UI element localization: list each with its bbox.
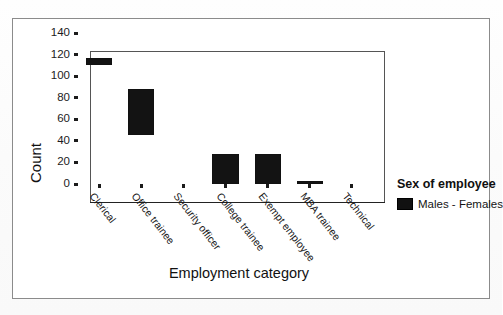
x-tick-mark — [224, 184, 227, 188]
x-tick-mark — [350, 184, 353, 188]
x-axis-title: Employment category — [109, 265, 369, 281]
x-tick-mark — [140, 184, 143, 188]
legend: Sex of employee Males - Females — [397, 177, 502, 210]
y-tick-label: 0 — [24, 178, 70, 189]
y-tick-label: 100 — [24, 70, 70, 81]
y-tick-mark — [74, 183, 78, 186]
y-tick-label: 20 — [24, 156, 70, 167]
x-tick-mark — [98, 184, 101, 188]
figure-border: Count 020406080100120140 ClericalOffice … — [12, 18, 490, 299]
x-tick-mark — [182, 184, 185, 188]
bar — [212, 154, 238, 184]
y-tick-label: 140 — [24, 27, 70, 38]
legend-swatch-icon — [397, 198, 413, 210]
y-tick-mark — [74, 96, 78, 99]
bar — [86, 58, 112, 66]
legend-item-label: Males - Females — [418, 198, 503, 210]
y-tick-label: 60 — [24, 113, 70, 124]
legend-item: Males - Females — [397, 198, 502, 210]
y-tick-label: 40 — [24, 135, 70, 146]
x-tick-mark — [308, 184, 311, 188]
x-tick-mark — [266, 184, 269, 188]
y-tick-mark — [74, 139, 78, 142]
legend-title: Sex of employee — [397, 177, 502, 191]
y-tick-mark — [74, 118, 78, 121]
bar — [128, 89, 154, 135]
bar — [255, 154, 281, 184]
bar — [297, 181, 323, 184]
y-tick-mark — [74, 75, 78, 78]
y-tick-mark — [74, 161, 78, 164]
y-tick-label: 120 — [24, 49, 70, 60]
y-tick-label: 80 — [24, 92, 70, 103]
y-tick-mark — [74, 32, 78, 35]
y-tick-mark — [74, 53, 78, 56]
